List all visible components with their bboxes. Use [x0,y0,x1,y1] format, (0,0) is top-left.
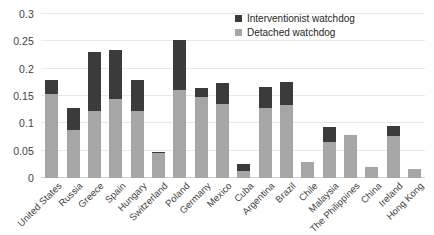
x-tick-label: Brazil [273,180,298,205]
y-tick-label: 0.15 [13,90,34,102]
bar-segment-interventionist[interactable] [173,40,186,90]
legend-item[interactable]: Interventionist watchdog [235,13,355,24]
bar-segment-interventionist[interactable] [45,80,58,94]
bar-group[interactable] [109,50,122,178]
plot-area [41,14,425,178]
bar-group[interactable] [365,167,378,178]
bar-segment-interventionist[interactable] [152,152,165,154]
bar-segment-detached[interactable] [259,108,272,178]
bar-segment-detached[interactable] [216,104,229,178]
bar-group[interactable] [280,82,293,178]
bar-group[interactable] [67,108,80,178]
bar-segment-detached[interactable] [109,99,122,178]
bar-segment-detached[interactable] [45,94,58,178]
y-tick-label: 0.05 [13,145,34,157]
bar-group[interactable] [387,126,400,178]
bar-segment-detached[interactable] [131,111,144,178]
bar-group[interactable] [131,80,144,178]
bar-segment-interventionist[interactable] [280,82,293,105]
y-tick-label: 0.3 [19,8,34,20]
bar-group[interactable] [301,162,314,178]
bar-segment-interventionist[interactable] [88,52,101,111]
bar-group[interactable] [45,80,58,178]
bar-segment-detached[interactable] [323,142,336,178]
bar-segment-interventionist[interactable] [237,164,250,171]
bar-segment-interventionist[interactable] [216,83,229,103]
stacked-bar-chart: 00.050.10.150.20.250.3 United StatesRuss… [0,0,434,235]
bar-segment-detached[interactable] [365,167,378,178]
bar-segment-interventionist[interactable] [67,108,80,130]
bar-group[interactable] [152,152,165,178]
bar-group[interactable] [323,127,336,178]
legend-label: Interventionist watchdog [247,13,355,24]
x-axis: United StatesRussiaGreeceSpainHungarySwi… [41,180,425,235]
bar-segment-interventionist[interactable] [323,127,336,142]
bar-segment-interventionist[interactable] [109,50,122,99]
bar-segment-interventionist[interactable] [259,87,272,108]
legend-label: Detached watchdog [247,27,335,38]
y-tick-label: 0 [28,172,34,184]
bar-group[interactable] [216,83,229,178]
bar-segment-detached[interactable] [195,97,208,178]
bar-segment-detached[interactable] [152,153,165,178]
bar-group[interactable] [237,164,250,178]
bar-group[interactable] [259,87,272,178]
bar-segment-detached[interactable] [301,162,314,178]
bar-segment-detached[interactable] [408,169,421,178]
bar-segment-detached[interactable] [173,90,186,178]
bar-group[interactable] [173,40,186,178]
bar-segment-interventionist[interactable] [131,80,144,112]
bar-segment-detached[interactable] [387,136,400,178]
bar-segment-detached[interactable] [67,130,80,178]
legend-swatch-icon [235,15,242,22]
bar-segment-detached[interactable] [280,105,293,178]
bar-group[interactable] [344,135,357,178]
bar-group[interactable] [88,52,101,178]
y-tick-label: 0.1 [19,117,34,129]
bars-layer [41,14,425,178]
bar-segment-interventionist[interactable] [387,126,400,136]
bar-group[interactable] [195,88,208,178]
bar-segment-interventionist[interactable] [195,88,208,97]
legend-item[interactable]: Detached watchdog [235,27,355,38]
bar-segment-detached[interactable] [237,171,250,178]
bar-segment-detached[interactable] [88,111,101,178]
y-tick-label: 0.2 [19,63,34,75]
bar-segment-detached[interactable] [344,135,357,178]
legend-swatch-icon [235,29,242,36]
bar-group[interactable] [408,169,421,178]
y-tick-label: 0.25 [13,35,34,47]
y-axis: 00.050.10.150.20.250.3 [0,0,38,192]
chart-legend: Interventionist watchdogDetached watchdo… [235,13,355,38]
